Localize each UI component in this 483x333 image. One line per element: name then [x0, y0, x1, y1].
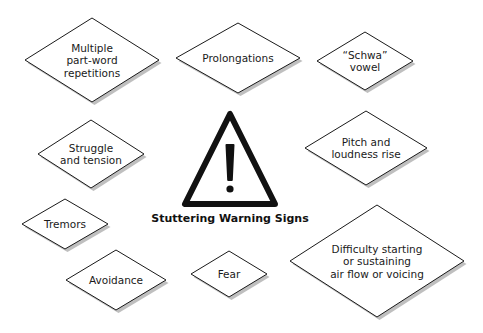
node-label: Difficulty starting [332, 243, 423, 255]
node-label: Avoidance [89, 274, 143, 286]
node-label: “Schwa” [343, 49, 388, 61]
node-label: Prolongations [202, 52, 273, 64]
node-label: Struggle [69, 142, 113, 154]
node-multiple-part-word-repetitions: Multiplepart-wordrepetitions [25, 18, 162, 105]
node-prolongations: Prolongations [176, 23, 303, 96]
node-schwa-vowel: “Schwa”vowel [317, 32, 416, 93]
warning-triangle-icon [185, 114, 275, 204]
node-tremors: Tremors [22, 199, 111, 252]
node-label: Multiple [71, 42, 113, 54]
node-struggle-and-tension: Struggleand tension [38, 120, 147, 191]
node-label: or sustaining [343, 255, 411, 267]
node-difficulty-starting-or-sustaining-air-flow-or-voicing: Difficulty startingor sustainingair flow… [290, 205, 467, 320]
diagram-svg: Multiplepart-wordrepetitionsProlongation… [0, 0, 483, 333]
node-label: vowel [350, 61, 381, 73]
node-label: repetitions [64, 67, 120, 79]
node-pitch-and-loudness-rise: Pitch andloudness rise [305, 111, 430, 188]
node-label: Pitch and [342, 136, 391, 148]
diagram-canvas: Multiplepart-wordrepetitionsProlongation… [0, 0, 483, 333]
diagram-title: Stuttering Warning Signs [151, 212, 309, 225]
node-label: Fear [218, 268, 241, 280]
node-label: air flow or voicing [330, 268, 424, 280]
node-label: part-word [66, 54, 117, 66]
node-label: and tension [60, 154, 122, 166]
node-fear: Fear [191, 251, 270, 300]
node-label: Tremors [43, 218, 86, 230]
node-avoidance: Avoidance [66, 250, 169, 313]
node-label: loudness rise [331, 148, 400, 160]
